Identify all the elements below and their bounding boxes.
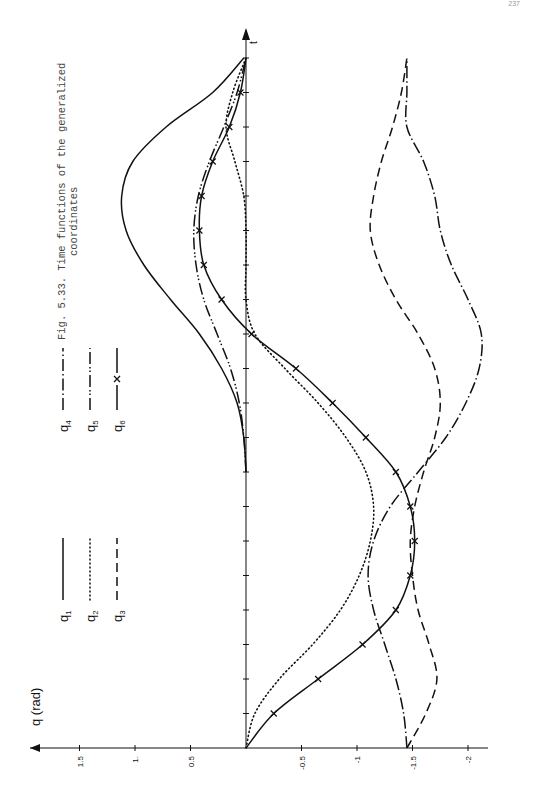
t-axis-label: t xyxy=(248,41,259,44)
caption-line-2: coordinates xyxy=(68,40,80,340)
x-marker-icon xyxy=(363,435,369,441)
series-q6 xyxy=(199,58,414,748)
q-axis-arrow-icon xyxy=(30,744,40,752)
legend-label-q2: q2 xyxy=(83,610,100,622)
q-axis-tick-label: 1.5 xyxy=(76,755,85,767)
q-axis-tick-label: -1.5 xyxy=(409,755,418,769)
q-axis-tick-label: -2 xyxy=(464,755,473,763)
x-marker-icon xyxy=(393,469,399,475)
legend-label-q6: q6 xyxy=(110,420,127,432)
axes: q (rad)1.51.0.5-0.5-1-1.5-2t xyxy=(28,28,488,770)
x-marker-icon xyxy=(271,711,277,717)
x-marker-icon xyxy=(330,400,336,406)
x-marker-icon xyxy=(393,607,399,613)
chart-canvas: q (rad)1.51.0.5-0.5-1-1.5-2t q1q2q3q4q5q… xyxy=(0,0,538,810)
t-axis-arrow-icon xyxy=(242,28,250,40)
q-axis-tick-label: 0.5 xyxy=(187,755,196,767)
series-lines xyxy=(121,58,482,748)
figure-caption: Fig. 5.33. Time functions of the general… xyxy=(56,40,80,340)
legend-label-q4: q4 xyxy=(56,420,73,432)
q-axis-tick-label: -1 xyxy=(353,755,362,763)
legend-label-q3: q3 xyxy=(110,610,127,622)
x-marker-icon xyxy=(315,676,321,682)
x-marker-icon xyxy=(219,297,225,303)
series-q1 xyxy=(121,58,246,472)
legend-label-q5: q5 xyxy=(83,420,100,432)
series-q4 xyxy=(368,58,482,748)
q-axis-tick-label: 1. xyxy=(131,756,140,763)
series-q5 xyxy=(194,58,246,472)
x-marker-icon xyxy=(360,642,366,648)
legend: q1q2q3q4q5q6 xyxy=(56,348,127,622)
x-marker-icon xyxy=(210,159,216,165)
q-axis-tick-label: -0.5 xyxy=(298,755,307,769)
q-axis-label: q (rad) xyxy=(28,688,43,726)
caption-line-1: Fig. 5.33. Time functions of the general… xyxy=(56,40,68,340)
x-marker-icon xyxy=(293,366,299,372)
x-marker-icon xyxy=(249,331,255,337)
series-q3 xyxy=(370,58,440,748)
legend-label-q1: q1 xyxy=(56,610,73,622)
